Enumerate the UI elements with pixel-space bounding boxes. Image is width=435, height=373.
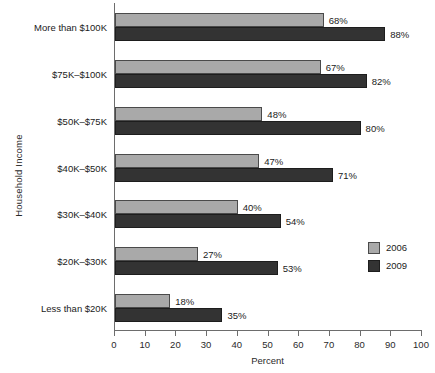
bar-2006-4 xyxy=(115,200,238,214)
category-label: $40K–$50K xyxy=(0,162,107,173)
legend-swatch-2009 xyxy=(368,260,380,272)
bar-2009-0 xyxy=(115,27,385,41)
x-tick xyxy=(298,331,299,336)
bar-value-label: 35% xyxy=(227,309,246,320)
y-axis-title: Household Income xyxy=(13,106,24,246)
bar-2009-1 xyxy=(115,74,367,88)
bar-2009-5 xyxy=(115,261,278,275)
bar-value-label: 18% xyxy=(175,295,194,306)
x-tick xyxy=(268,331,269,336)
x-axis-title: Percent xyxy=(114,355,421,366)
category-label: $20K–$30K xyxy=(0,255,107,266)
category-label: $75K–$100K xyxy=(0,69,107,80)
bar-2006-0 xyxy=(115,13,324,27)
x-tick xyxy=(145,331,146,336)
bar-value-label: 53% xyxy=(283,262,302,273)
bar-value-label: 40% xyxy=(243,202,262,213)
legend: 2006 2009 xyxy=(368,240,432,276)
category-label: $50K–$75K xyxy=(0,115,107,126)
bar-value-label: 71% xyxy=(338,169,357,180)
x-tick xyxy=(329,331,330,336)
bar-value-label: 48% xyxy=(267,108,286,119)
bar-value-label: 47% xyxy=(264,155,283,166)
plot-area: 0102030405060708090100 68%88%67%82%48%80… xyxy=(114,3,421,330)
bar-value-label: 82% xyxy=(372,76,391,87)
bar-chart: Household Income 0102030405060708090100 … xyxy=(0,0,435,373)
bar-value-label: 68% xyxy=(329,15,348,26)
x-tick-label: 100 xyxy=(401,339,435,350)
x-tick xyxy=(390,331,391,336)
x-tick xyxy=(114,331,115,336)
bar-2006-2 xyxy=(115,107,262,121)
bar-2006-1 xyxy=(115,60,321,74)
category-label: $30K–$40K xyxy=(0,209,107,220)
bar-value-label: 80% xyxy=(366,122,385,133)
bar-value-label: 67% xyxy=(326,62,345,73)
legend-label-2006: 2006 xyxy=(386,242,407,253)
x-tick xyxy=(237,331,238,336)
bar-2009-2 xyxy=(115,121,361,135)
legend-swatch-2006 xyxy=(368,242,380,254)
x-tick xyxy=(206,331,207,336)
bar-2006-6 xyxy=(115,294,170,308)
x-tick xyxy=(175,331,176,336)
x-tick xyxy=(360,331,361,336)
bar-2006-3 xyxy=(115,154,259,168)
x-tick xyxy=(421,331,422,336)
bar-2009-6 xyxy=(115,308,222,322)
bar-value-label: 88% xyxy=(390,29,409,40)
category-label: More than $100K xyxy=(0,22,107,33)
bar-value-label: 54% xyxy=(286,216,305,227)
bar-value-label: 27% xyxy=(203,248,222,259)
category-label: Less than $20K xyxy=(0,302,107,313)
legend-item-2006: 2006 xyxy=(368,240,432,255)
legend-item-2009: 2009 xyxy=(368,258,432,273)
legend-label-2009: 2009 xyxy=(386,260,407,271)
bar-2009-4 xyxy=(115,214,281,228)
bar-2009-3 xyxy=(115,168,333,182)
bar-2006-5 xyxy=(115,247,198,261)
